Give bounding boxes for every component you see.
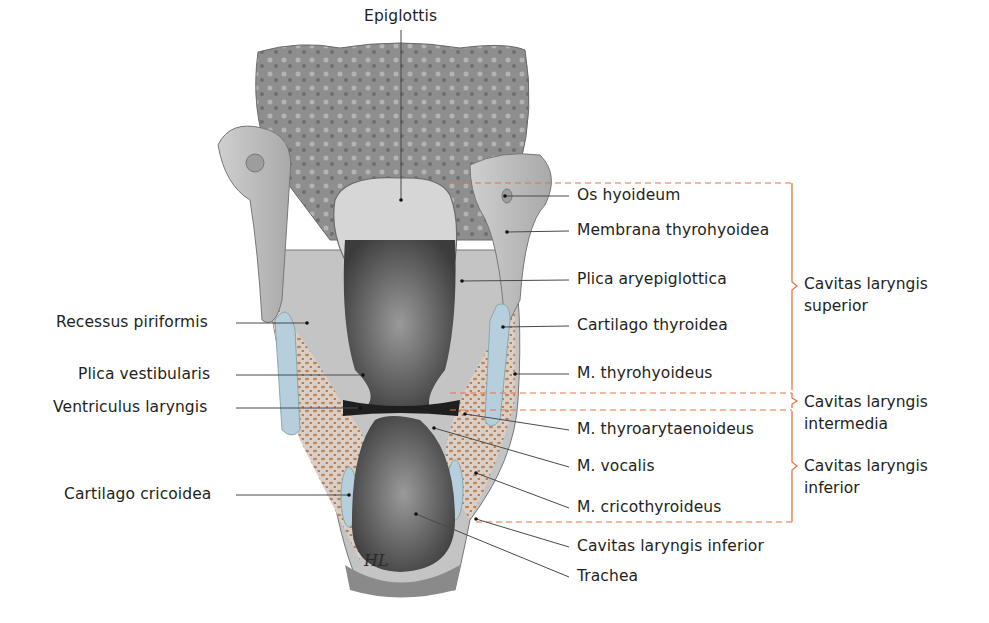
larynx-diagram: HL Epiglottis Recessus piriformis Plica … (0, 0, 989, 623)
label-cavitas-laryngis-inferior: Cavitas laryngis inferior (577, 537, 764, 556)
label-m-vocalis: M. vocalis (577, 457, 655, 476)
region-cavitas-superior-line1: Cavitas laryngis (804, 273, 928, 295)
label-m-thyrohyoideus: M. thyrohyoideus (577, 364, 712, 383)
label-plica-aryepiglottica: Plica aryepiglottica (577, 270, 727, 289)
label-epiglottis: Epiglottis (364, 7, 437, 26)
label-plica-vestibularis: Plica vestibularis (78, 365, 210, 384)
region-cavitas-inferior-line1: Cavitas laryngis (804, 455, 928, 477)
region-cavitas-inferior: Cavitas laryngis inferior (804, 455, 928, 499)
region-cavitas-superior: Cavitas laryngis superior (804, 273, 928, 317)
artist-signature: HL (363, 551, 389, 570)
label-m-thyroarytaenoideus: M. thyroarytaenoideus (577, 420, 754, 439)
label-recessus-piriformis: Recessus piriformis (56, 313, 208, 332)
label-cartilago-thyroidea: Cartilago thyroidea (577, 316, 728, 335)
region-cavitas-intermedia-line2: intermedia (804, 413, 928, 435)
region-cavitas-intermedia-line1: Cavitas laryngis (804, 391, 928, 413)
region-brackets (792, 183, 797, 522)
label-trachea: Trachea (577, 567, 638, 586)
label-ventriculus-laryngis: Ventriculus laryngis (53, 398, 207, 417)
region-cavitas-intermedia: Cavitas laryngis intermedia (804, 391, 928, 435)
label-m-cricothyroideus: M. cricothyroideus (577, 498, 721, 517)
label-cartilago-cricoidea: Cartilago cricoidea (64, 485, 211, 504)
label-os-hyoideum: Os hyoideum (577, 186, 680, 205)
label-membrana-thyrohyoidea: Membrana thyrohyoidea (577, 221, 769, 240)
region-cavitas-superior-line2: superior (804, 295, 928, 317)
region-cavitas-inferior-line2: inferior (804, 477, 928, 499)
